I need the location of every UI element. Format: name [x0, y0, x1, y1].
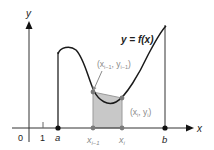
point-a: [55, 125, 60, 130]
point-x-prev: [91, 126, 96, 131]
x-i-label: xi: [118, 135, 126, 146]
cur-point-label: (xi, yi): [130, 107, 152, 118]
trapezoid-area-diagram: y x 0 1 a b xi−1 xi y = f(x) (xi−1, yi−1…: [0, 0, 214, 150]
point-prev-on-curve: [91, 90, 96, 95]
x-prev-label: xi−1: [86, 135, 100, 146]
annotation-pointer: [94, 71, 102, 89]
x-axis-arrow-icon: [186, 125, 194, 132]
x-axis-label: x: [196, 123, 203, 134]
y-axis-arrow-icon: [26, 21, 33, 29]
tick-1-label: 1: [40, 133, 45, 143]
point-x-i: [120, 126, 125, 131]
curve-label: y = f(x): [120, 34, 154, 45]
b-label: b: [162, 134, 167, 145]
y-axis-label: y: [25, 8, 32, 19]
origin-label: 0: [18, 133, 23, 143]
a-label: a: [55, 132, 60, 143]
point-b: [162, 125, 167, 130]
point-i-on-curve: [120, 96, 125, 101]
prev-point-label: (xi−1, yi−1): [97, 59, 131, 70]
